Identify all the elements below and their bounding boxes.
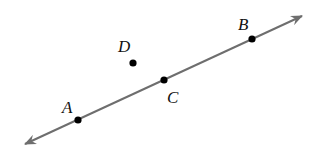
point-b <box>248 35 255 42</box>
point-c <box>160 76 167 83</box>
point-d <box>129 59 136 66</box>
label-d: D <box>117 37 131 56</box>
label-a: A <box>61 98 73 117</box>
label-b: B <box>238 15 249 34</box>
geometry-diagram: A C B D <box>0 0 328 154</box>
label-c: C <box>167 88 179 107</box>
point-a <box>74 116 81 123</box>
